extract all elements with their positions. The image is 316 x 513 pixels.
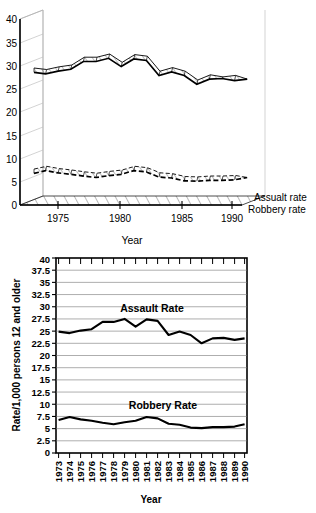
y-tick-label: 32.5 — [32, 289, 51, 300]
y-tick-label: 35 — [39, 277, 50, 288]
x-tick-label: 1986 — [196, 461, 207, 482]
two-d-chart-svg: 0 2.5 5 7.5 10 12.5 15 17.5 20 22.5 25 2… — [0, 250, 316, 513]
x-tick-label: 1990 — [239, 461, 250, 482]
y-tick-label: 0 — [45, 447, 50, 458]
legend-label-assault: Assualt rate — [254, 192, 307, 203]
y-tick-label: 30 — [6, 61, 18, 72]
x-axis-title: Year — [121, 234, 143, 246]
three-d-chart-svg: 0 5 10 15 20 25 30 35 40 — [0, 0, 316, 250]
x-tick-label: 1980 — [130, 461, 141, 482]
y-tick-label: 35 — [6, 38, 18, 49]
y-tick-label: 7.5 — [37, 411, 51, 422]
y-tick-label: 25 — [39, 326, 50, 337]
y-tick-label: 27.5 — [32, 313, 51, 324]
y-tick-label: 20 — [6, 107, 18, 118]
x-axis-title: Year — [140, 494, 161, 505]
x-tick-label: 1983 — [163, 461, 174, 482]
x-tick-label: 1987 — [207, 461, 218, 482]
y-tick-label: 17.5 — [32, 362, 51, 373]
y-axis-title: Rate/1,000 persons 12 and older — [11, 278, 22, 431]
y-tick-label: 2.5 — [37, 435, 51, 446]
x-tick-label: 1980 — [109, 213, 132, 224]
x-tick-label: 1978 — [108, 461, 119, 482]
y-tick-label: 22.5 — [32, 338, 51, 349]
y-tick-label: 5 — [11, 177, 17, 188]
x-tick-label: 1975 — [75, 460, 86, 482]
y-tick-label: 0 — [11, 200, 17, 211]
back-wall — [43, 10, 265, 196]
three-d-ribbon-chart: 0 5 10 15 20 25 30 35 40 — [0, 0, 316, 250]
robbery-rate-annotation: Robbery Rate — [129, 399, 197, 411]
legend: Assualt rate Robbery rate — [248, 192, 307, 215]
y-tick-label: 10 — [6, 154, 18, 165]
x-tick-label: 1973 — [53, 461, 64, 482]
x-tick-label: 1985 — [171, 213, 194, 224]
y-axis-tick-labels: 0 2.5 5 7.5 10 12.5 15 17.5 20 22.5 25 2… — [32, 254, 51, 458]
x-tick-label: 1982 — [152, 461, 163, 482]
left-depth-wall — [20, 10, 43, 205]
x-axis-tick-labels: 1975 1980 1985 1990 — [47, 213, 244, 224]
y-tick-label: 15 — [39, 374, 50, 385]
x-tick-label: 1990 — [221, 213, 244, 224]
x-tick-label: 1988 — [218, 461, 229, 482]
two-d-line-chart: 0 2.5 5 7.5 10 12.5 15 17.5 20 22.5 25 2… — [0, 250, 316, 513]
x-tick-label: 1976 — [86, 461, 97, 482]
y-tick-label: 25 — [6, 84, 18, 95]
legend-label-robbery: Robbery rate — [248, 204, 306, 215]
x-tick-label: 1979 — [119, 461, 130, 482]
figure-page: 0 5 10 15 20 25 30 35 40 — [0, 0, 316, 513]
y-tick-label: 40 — [39, 254, 50, 265]
x-tick-label: 1981 — [141, 460, 152, 482]
assault-rate-annotation: Assault Rate — [120, 302, 184, 314]
y-tick-label: 15 — [6, 131, 18, 142]
y-tick-label: 37.5 — [32, 265, 51, 276]
x-tick-label: 1984 — [174, 460, 185, 482]
y-tick-label: 12.5 — [32, 387, 51, 398]
x-tick-label: 1974 — [64, 460, 75, 482]
y-axis-tick-labels: 0 5 10 15 20 25 30 35 40 — [6, 14, 18, 211]
x-axis-tick-labels: 1973 1974 1975 1976 1977 1978 1979 1980 … — [53, 460, 250, 482]
y-tick-label: 10 — [39, 399, 50, 410]
y-tick-label: 40 — [6, 14, 18, 25]
floor-plane — [20, 196, 265, 205]
y-tick-label: 30 — [39, 301, 50, 312]
x-tick-label: 1977 — [97, 461, 108, 482]
x-tick-label: 1975 — [47, 213, 70, 224]
y-tick-label: 5 — [45, 423, 51, 434]
x-tick-label: 1985 — [185, 460, 196, 482]
y-tick-label: 20 — [39, 350, 50, 361]
